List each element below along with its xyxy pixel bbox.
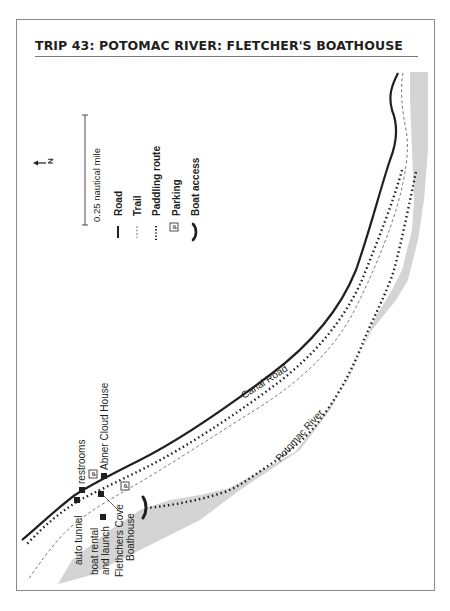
scale-bar: 0.25 nautical mile (82, 115, 102, 225)
canal-road-label: Canal Road (239, 363, 289, 401)
auto-tunnel-label: auto tunnel (73, 516, 84, 566)
svg-text:P: P (123, 484, 129, 488)
scale-bar-label: 0.25 nautical mile (91, 148, 102, 222)
legend-trail-label: Trail (132, 195, 143, 216)
legend-paddling-label: Paddling route (151, 146, 162, 216)
boat-access-icon (193, 224, 196, 240)
and-launch-label: and launch (100, 526, 111, 575)
potomac-river-label: Potomac River (273, 407, 326, 464)
map-canvas: P P Canal Road Potomac River restrooms A… (0, 0, 450, 611)
north-arrow-icon: N (33, 158, 55, 166)
boat-rental-label: boat rental (89, 528, 100, 575)
auto-tunnel-marker (74, 497, 80, 503)
boat-access-icon (143, 497, 146, 518)
abner-cloud-marker (101, 473, 107, 479)
legend-road-label: Road (113, 191, 124, 216)
svg-text:P: P (91, 472, 97, 476)
svg-text:P: P (172, 225, 178, 229)
fletchers-cove-label: Flethchers Cove (114, 504, 125, 577)
restrooms-marker (79, 487, 85, 493)
boat-rental-marker (98, 491, 104, 497)
boathouse-label: Boathouse (125, 513, 136, 561)
boathouse-marker (100, 514, 106, 520)
legend: Road Trail Paddling route P Parking Boat… (113, 146, 201, 240)
parking-icon: P (121, 482, 129, 490)
legend-boat-access-label: Boat access (190, 157, 201, 216)
abner-cloud-house-label: Abner Cloud House (99, 382, 110, 470)
restrooms-label: restrooms (76, 440, 87, 484)
svg-text:N: N (46, 158, 55, 164)
legend-parking-label: Parking (171, 179, 182, 216)
parking-icon: P (89, 470, 97, 478)
